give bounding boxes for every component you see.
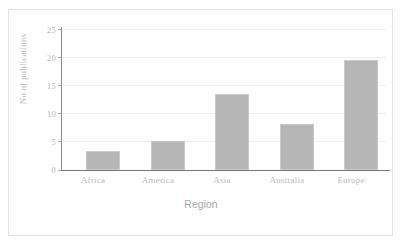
x-axis-line [61,170,390,171]
x-tick-label-america: America [128,175,188,185]
y-tick-label-20: 20 [34,53,56,63]
y-tick-label-5: 5 [34,137,56,147]
x-tick-label-africa: Africa [63,175,123,185]
bar-chart-figure: 25 20 15 10 5 0 No of publications Afric… [0,0,402,246]
plot-area [62,29,386,170]
gridline-15 [62,85,386,86]
y-tick-label-25: 25 [34,25,56,35]
y-tick-label-15: 15 [34,81,56,91]
gridline-25 [62,29,386,30]
bar-africa [86,151,120,170]
y-axis-line [61,27,62,171]
x-tick-label-asia: Asia [192,175,252,185]
y-tick-label-0: 0 [34,165,56,175]
y-axis-title: No of publications [18,4,28,134]
x-tick-label-australia: Australia [257,175,317,185]
bar-america [151,141,185,170]
x-axis-title: Region [0,198,402,210]
bar-asia [215,94,249,170]
y-tick-label-10: 10 [34,109,56,119]
bar-australia [280,124,314,170]
gridline-20 [62,57,386,58]
bar-europe [344,60,378,170]
x-tick-label-europe: Europe [321,175,381,185]
